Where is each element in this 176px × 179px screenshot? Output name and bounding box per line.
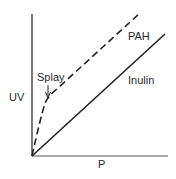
y-axis-label: UV: [9, 91, 25, 103]
pah-label: PAH: [128, 30, 150, 42]
pah-line: [32, 13, 140, 156]
chart: UV P PAH Inulin Splay: [0, 0, 176, 179]
inulin-label: Inulin: [128, 74, 154, 86]
x-axis-label: P: [98, 158, 105, 170]
splay-label: Splay: [37, 71, 65, 83]
inulin-line: [32, 34, 165, 156]
